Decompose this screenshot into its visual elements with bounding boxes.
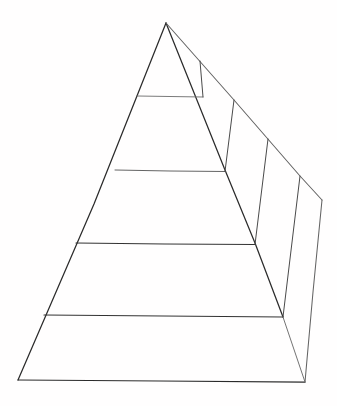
pyramid-drawing [0, 0, 337, 406]
front-right-edge [166, 23, 283, 317]
front-tier-divider-4 [44, 315, 283, 317]
side-tier-divider-3 [255, 139, 268, 245]
side-tier-dividers [200, 61, 300, 317]
side-base-edge [283, 317, 305, 382]
front-tier-dividers [44, 96, 283, 317]
front-tier-divider-1 [137, 96, 203, 97]
back-right-vertical-edge [305, 200, 322, 382]
pyramid-side-face [166, 23, 322, 382]
pyramid-front-face [18, 23, 305, 382]
back-ridge-edge [166, 23, 322, 200]
side-tier-divider-1 [200, 61, 203, 97]
front-left-edge [18, 23, 166, 380]
front-tier-divider-3 [76, 243, 255, 245]
pyramid-diagram-canvas [0, 0, 337, 406]
side-tier-divider-4 [283, 176, 300, 317]
front-base-edge [18, 380, 305, 382]
side-tier-divider-2 [225, 100, 234, 172]
side-face-base [283, 317, 305, 382]
front-tier-divider-2 [115, 170, 225, 172]
